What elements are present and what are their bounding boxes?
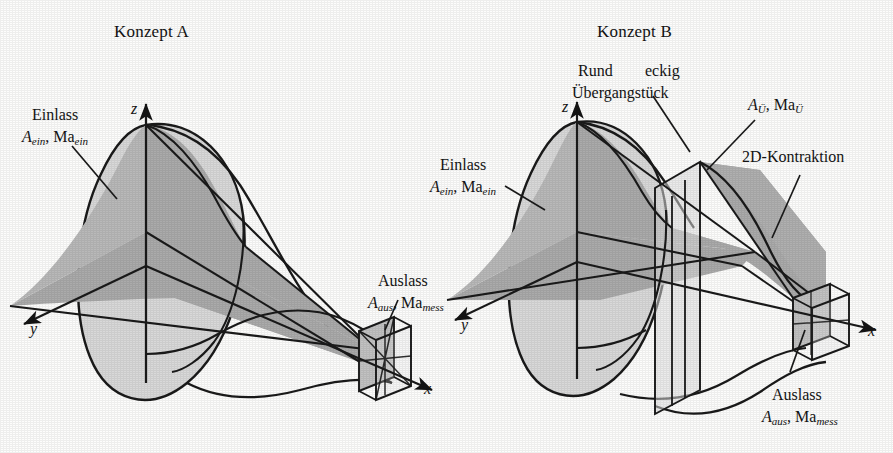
inlet-area-sub-a: ein <box>32 135 45 147</box>
nozzle-concepts-figure <box>0 0 893 453</box>
inlet-mach-sub-b: ein <box>483 185 496 197</box>
comma-b1: , <box>766 96 774 113</box>
konzept-b-drawing <box>447 96 876 414</box>
outlet-symbols-a: Aaus, Mamess <box>368 294 444 313</box>
inlet-mach-sub-a: ein <box>75 135 88 147</box>
outlet-symbols-b: Aaus, Mamess <box>762 408 838 427</box>
x-axis-label-a: x <box>424 380 431 398</box>
z-axis-label-a: z <box>131 100 137 118</box>
inlet-mach-sym-b: Ma <box>461 178 482 195</box>
transition-mach-sub-b: Ü <box>795 103 803 115</box>
transition-label-b-word1: Rund <box>578 62 613 80</box>
outlet-label-b-line1: Auslass <box>772 386 822 404</box>
panel-title-konzept-a: Konzept A <box>114 22 189 42</box>
transition-area-sym-b: A <box>748 96 758 113</box>
outlet-label-a-line1: Auslass <box>378 272 428 290</box>
inlet-area-sub-b: ein <box>440 185 453 197</box>
contraction-label-b: 2D-Kontraktion <box>742 148 844 166</box>
transition-label-b-line2: Übergangstück <box>572 84 669 102</box>
inlet-mach-sym-a: Ma <box>53 128 74 145</box>
transition-mach-sym-b: Ma <box>774 96 795 113</box>
y-axis-label-a: y <box>30 320 37 338</box>
comma-a2: , <box>393 294 401 311</box>
outlet-area-sub-a: aus <box>378 301 393 313</box>
inlet-label-b-line1: Einlass <box>440 156 486 174</box>
inlet-area-sym-a: A <box>22 128 32 145</box>
inlet-area-sym-b: A <box>430 178 440 195</box>
inlet-label-a-line1: Einlass <box>32 106 78 124</box>
outlet-area-sym-a: A <box>368 294 378 311</box>
outlet-mach-sub-b: mess <box>816 415 837 427</box>
panel-title-konzept-b: Konzept B <box>597 22 672 42</box>
outlet-mach-sym-a: Ma <box>401 294 422 311</box>
transition-leader-b <box>653 96 690 152</box>
outlet-area-sub-b: aus <box>772 415 787 427</box>
outlet-mach-sym-b: Ma <box>795 408 816 425</box>
inlet-symbols-a: Aein, Maein <box>22 128 88 147</box>
outlet-area-sym-b: A <box>762 408 772 425</box>
transition-area-sub-b: Ü <box>758 103 766 115</box>
y-axis-label-b: y <box>461 316 468 334</box>
transition-state-symbols-b: AÜ, MaÜ <box>748 96 803 115</box>
inlet-symbols-b: Aein, Maein <box>430 178 496 197</box>
transition-label-b-word2: eckig <box>645 62 680 80</box>
outlet-mach-sub-a: mess <box>422 301 443 313</box>
comma-b3: , <box>787 408 795 425</box>
z-axis-label-b: z <box>562 98 568 116</box>
x-axis-label-b: x <box>868 322 875 340</box>
konzept-a-drawing <box>10 104 432 400</box>
